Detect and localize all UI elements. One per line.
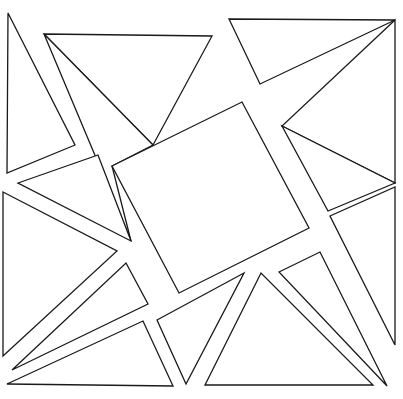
geometric-dissection-diagram (0, 0, 403, 399)
